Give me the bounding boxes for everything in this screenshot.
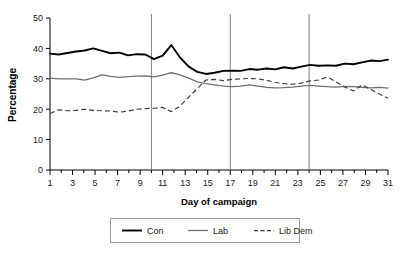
y-tick-label: 0 <box>38 165 43 175</box>
y-tick-label: 20 <box>33 105 43 115</box>
x-tick-label: 27 <box>338 178 348 188</box>
x-tick-label: 7 <box>115 178 120 188</box>
legend-label-lib-dem: Lib Dem <box>279 226 313 236</box>
x-tick-label: 3 <box>70 178 75 188</box>
y-axis-title: Percentage <box>7 68 18 122</box>
x-tick-label: 5 <box>93 178 98 188</box>
legend-label-con: Con <box>147 226 164 236</box>
x-tick-label: 11 <box>158 178 167 188</box>
series-line-con <box>50 45 388 74</box>
x-tick-label: 15 <box>203 178 213 188</box>
x-tick-label: 13 <box>180 178 190 188</box>
x-tick-label: 19 <box>248 178 258 188</box>
y-tick-label: 10 <box>33 135 43 145</box>
x-axis-title: Day of campaign <box>181 196 257 207</box>
vertical-reference-lines <box>151 14 309 170</box>
y-tick-label: 50 <box>33 13 43 23</box>
x-tick-label: 25 <box>315 178 325 188</box>
x-tick-label: 31 <box>383 178 393 188</box>
x-tick-label: 1 <box>47 178 52 188</box>
y-tick-label: 40 <box>33 44 43 54</box>
x-tick-label: 21 <box>270 178 280 188</box>
series-group <box>50 45 388 113</box>
chart-svg: Percentage 01020304050 13579111315171921… <box>0 0 406 253</box>
legend-label-lab: Lab <box>213 226 228 236</box>
line-chart: Percentage 01020304050 13579111315171921… <box>0 0 406 253</box>
y-tick-label: 30 <box>33 74 43 84</box>
x-tick-label: 29 <box>360 178 370 188</box>
x-axis-ticks: 135791113151719212325272931 <box>47 170 393 188</box>
x-tick-label: 23 <box>293 178 303 188</box>
x-tick-label: 9 <box>138 178 143 188</box>
legend: ConLabLib Dem <box>111 219 313 243</box>
x-tick-label: 17 <box>225 178 235 188</box>
series-line-lab <box>50 73 388 89</box>
y-axis-ticks: 01020304050 <box>33 13 50 175</box>
series-line-lib-dem <box>50 77 388 113</box>
